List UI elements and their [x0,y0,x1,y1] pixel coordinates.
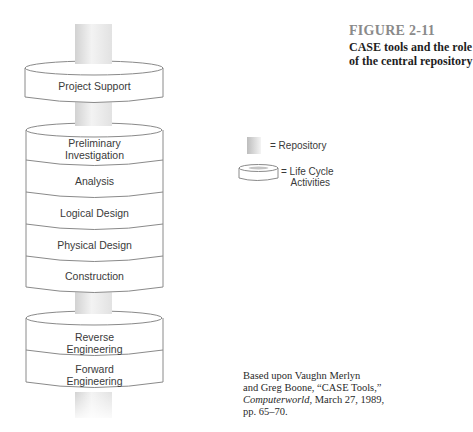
source-line: Computerworld, March 27, 1989, [243,394,423,406]
label-forward-engineering: Forward Engineering [26,363,163,387]
source-line: and Greg Boone, “CASE Tools,” [243,382,423,394]
label-preliminary-investigation: Preliminary Investigation [26,137,163,161]
source-line: Based upon Vaughn Merlyn [243,370,423,382]
label-line: Engineering [26,343,163,355]
label-line: Preliminary [26,137,163,149]
legend-repository-label: = Repository [270,140,326,151]
legend-line: = Life Cycle [281,166,334,177]
legend-repository-icon [247,137,261,154]
source-publication: Computerworld [243,394,310,405]
legend-lifecycle-icon [239,165,278,181]
label-reverse-engineering: Reverse Engineering [26,331,163,355]
label-analysis: Analysis [26,175,163,187]
legend-lifecycle-label: = Life Cycle Activities [281,166,334,188]
legend-line: Activities [281,177,334,188]
label-line: Reverse [26,331,163,343]
label-logical-design: Logical Design [26,207,163,219]
label-project-support: Project Support [26,80,163,92]
figure-title: CASE tools and the role of the central r… [349,40,473,68]
label-line: Forward [26,363,163,375]
label-line: Engineering [26,375,163,387]
label-construction: Construction [26,270,163,282]
source-date: , March 27, 1989, [310,394,385,405]
source-pages: pp. 65–70. [243,406,423,418]
figure-number: FIGURE 2-11 [349,23,435,39]
label-physical-design: Physical Design [26,239,163,251]
label-line: Investigation [26,149,163,161]
source-citation: Based upon Vaughn Merlyn and Greg Boone,… [243,370,423,418]
